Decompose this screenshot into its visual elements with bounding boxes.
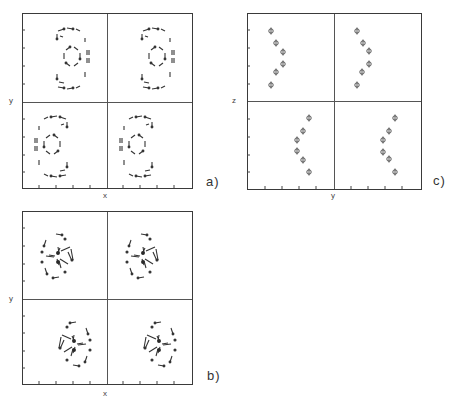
y-axis-label-c: z — [232, 96, 236, 105]
panel-label-c: c) — [433, 173, 446, 188]
x-axis-label-c: y — [331, 191, 335, 200]
panel-label-b: b) — [207, 368, 221, 383]
x-axis-label-b: x — [103, 389, 107, 398]
vector-plot-b — [0, 200, 230, 405]
marker-plot-c — [0, 0, 454, 200]
panel-b: y x b) — [0, 200, 230, 405]
panel-c: z y c) — [0, 0, 454, 200]
y-axis-label-b: y — [9, 294, 13, 303]
